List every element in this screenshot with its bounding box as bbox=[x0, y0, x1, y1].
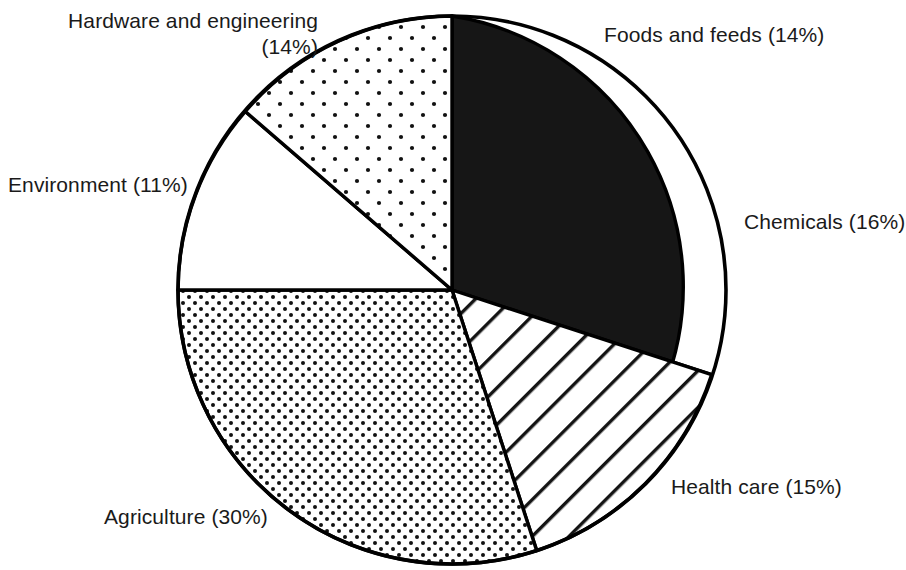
pie-label-health-care: Health care (15%) bbox=[671, 474, 842, 500]
pie-label-agriculture: Agriculture (30%) bbox=[104, 504, 268, 530]
pie-chart-figure: Hardware and engineering (14%) Foods and… bbox=[0, 0, 906, 570]
pie-label-foods-and-feeds: Foods and feeds (14%) bbox=[604, 22, 824, 48]
pie-label-chemicals: Chemicals (16%) bbox=[744, 209, 905, 235]
pie-label-hardware-line2: (14%) bbox=[261, 35, 318, 58]
pie-label-hardware-line1: Hardware and engineering bbox=[68, 9, 318, 32]
pie-label-environment: Environment (11%) bbox=[8, 172, 188, 198]
pie-label-hardware-and-engineering: Hardware and engineering (14%) bbox=[18, 8, 318, 60]
